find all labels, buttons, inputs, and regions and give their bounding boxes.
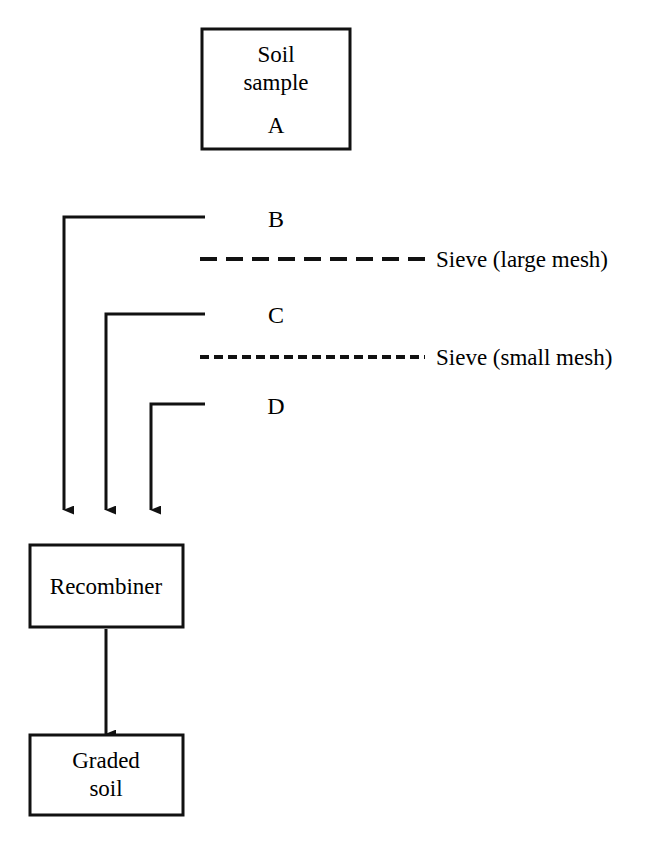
diagram-canvas: Soil sample A B C D Sieve (large mesh) S… [0,0,655,861]
soil-sample-label-line2: sample [243,70,308,95]
stream-c-path [106,314,205,510]
box-soil-sample: Soil sample A [202,29,350,149]
stream-b-path [64,217,205,510]
stream-d-path [151,404,205,510]
sieve-large-mesh-label: Sieve (large mesh) [436,247,608,272]
stream-label-b: B [268,206,284,232]
graded-soil-box-outline [30,735,183,815]
graded-soil-label-line1: Graded [72,748,140,773]
process-flow-diagram: Soil sample A B C D Sieve (large mesh) S… [0,0,655,861]
stream-label-c: C [268,302,284,328]
stream-label-d: D [267,393,284,419]
box-recombiner: Recombiner [30,545,183,627]
soil-sample-letter-a: A [268,113,285,138]
recombiner-label: Recombiner [50,574,163,599]
soil-sample-label-line1: Soil [257,42,294,67]
graded-soil-label-line2: soil [89,776,122,801]
box-graded-soil: Graded soil [30,735,183,815]
sieve-small-mesh-label: Sieve (small mesh) [436,345,612,370]
